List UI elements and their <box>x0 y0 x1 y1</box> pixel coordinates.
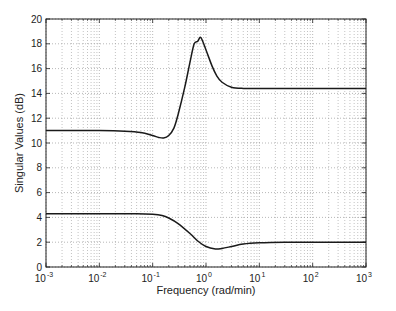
y-tick-label: 10 <box>31 138 43 149</box>
x-tick-label: 10-2 <box>88 271 106 284</box>
y-tick-label: 6 <box>36 187 42 198</box>
y-tick-label: 0 <box>36 262 42 273</box>
y-tick-label: 18 <box>31 38 43 49</box>
y-tick-label: 4 <box>36 212 42 223</box>
x-tick-label: 100 <box>196 271 212 284</box>
y-axis-label: Singular Values (dB) <box>13 93 25 193</box>
x-tick-label: 10-3 <box>35 271 53 284</box>
x-axis-tick-labels: 10-310-210-1100101102103 <box>35 271 372 284</box>
grid-lines <box>46 19 366 267</box>
x-tick-label: 101 <box>249 271 265 284</box>
x-tick-label: 102 <box>303 271 319 284</box>
singular-values-chart: 02468101214161820 10-310-210-11001011021… <box>0 0 396 311</box>
y-tick-label: 14 <box>31 88 43 99</box>
y-axis-tick-labels: 02468101214161820 <box>31 14 43 273</box>
y-tick-label: 12 <box>31 113 43 124</box>
x-tick-label: 103 <box>356 271 372 284</box>
series-line-sigma_min <box>46 214 366 249</box>
y-tick-label: 8 <box>36 162 42 173</box>
y-tick-label: 20 <box>31 14 43 25</box>
x-axis-label: Frequency (rad/min) <box>156 284 255 296</box>
y-tick-label: 16 <box>31 63 43 74</box>
x-tick-label: 10-1 <box>141 271 159 284</box>
y-tick-label: 2 <box>36 237 42 248</box>
